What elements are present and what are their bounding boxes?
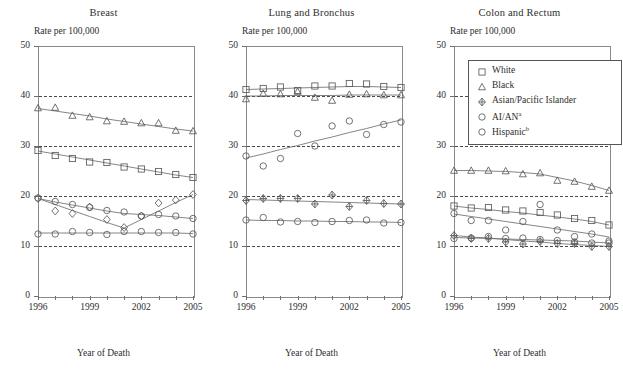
legend-item-label: Black [492, 80, 514, 90]
data-point-marker [398, 119, 404, 125]
data-point-marker [155, 119, 162, 125]
data-point-marker [260, 90, 267, 96]
data-point-marker [121, 164, 127, 170]
trend-line [38, 151, 193, 178]
data-point-marker [52, 207, 59, 215]
data-point-marker [312, 219, 318, 225]
data-point-marker [329, 97, 336, 103]
legend-item-hispanic[interactable]: Hispanicb [492, 125, 529, 137]
data-point-marker [52, 231, 58, 237]
series-layer [0, 0, 207, 373]
data-point-marker [329, 123, 335, 129]
data-point-marker [294, 130, 300, 136]
data-point-marker [190, 231, 196, 237]
data-point-marker [243, 153, 249, 159]
data-point-marker [69, 228, 75, 234]
data-point-marker [346, 217, 352, 223]
figure-root: BreastRate per 100,000010203040501996199… [0, 0, 623, 373]
data-point-marker [35, 231, 41, 237]
legend-item-black[interactable]: Black [492, 80, 514, 90]
data-point-marker [35, 104, 42, 110]
data-point-marker [363, 131, 369, 137]
data-point-marker [155, 211, 161, 217]
data-point-marker [138, 119, 145, 125]
trend-line [38, 195, 193, 229]
data-point-marker [86, 229, 92, 235]
data-point-marker [363, 90, 370, 96]
legend-item-asian-pacific-islander[interactable]: Asian/Pacific Islander [492, 95, 576, 105]
data-point-marker [173, 229, 179, 235]
data-point-marker [173, 213, 179, 219]
data-point-marker [277, 195, 284, 203]
data-point-marker [138, 213, 144, 219]
data-point-marker [346, 80, 352, 86]
legend-markers [416, 0, 623, 373]
trend-line [246, 87, 401, 90]
trend-line [38, 233, 193, 234]
legend-item-label: Hispanic [492, 127, 526, 137]
data-point-marker [52, 104, 59, 110]
series-layer [208, 0, 415, 373]
diamond-cross-marker [479, 98, 486, 106]
legend-item-label: AI/AN [492, 112, 518, 122]
data-point-marker [329, 83, 335, 89]
data-point-marker [243, 197, 250, 205]
data-point-marker [155, 199, 162, 207]
data-point-marker [260, 163, 266, 169]
triangle-marker [479, 83, 486, 89]
chart-panel-3: Colon and RectumRate per 100,00001020304… [416, 0, 623, 373]
data-point-marker [346, 203, 353, 211]
data-point-marker [172, 127, 179, 133]
data-point-marker [346, 118, 352, 124]
legend-item-label: Asian/Pacific Islander [492, 95, 576, 105]
data-point-marker [329, 191, 336, 199]
chart-panel-1: BreastRate per 100,000010203040501996199… [0, 0, 207, 373]
circle-marker [479, 129, 485, 135]
data-point-marker [312, 83, 318, 89]
data-point-marker [311, 94, 318, 100]
legend-footnote-marker: b [526, 125, 529, 132]
legend-item-label: White [492, 65, 515, 75]
data-point-marker [346, 91, 353, 97]
data-point-marker [35, 195, 41, 201]
trend-line [246, 120, 401, 158]
legend-footnote-marker: a [518, 110, 521, 117]
data-point-marker [104, 231, 110, 237]
legend-item-ai-an[interactable]: AI/ANa [492, 110, 521, 122]
data-point-marker [294, 218, 300, 224]
data-point-marker [277, 219, 283, 225]
data-point-marker [35, 147, 41, 153]
data-point-marker [260, 195, 267, 203]
data-point-marker [398, 200, 405, 208]
data-point-marker [277, 84, 283, 90]
data-point-marker [121, 209, 127, 215]
square-marker [479, 69, 485, 75]
data-point-marker [381, 220, 387, 226]
legend-item-white[interactable]: White [492, 65, 515, 75]
data-point-marker [277, 155, 283, 161]
data-point-marker [155, 229, 161, 235]
trend-line [246, 95, 401, 96]
data-point-marker [381, 83, 387, 89]
small-circle-marker [479, 114, 485, 120]
data-point-marker [312, 143, 318, 149]
trend-line [38, 199, 193, 219]
trend-line [246, 200, 401, 205]
chart-panel-2: Lung and BronchusRate per 100,0000102030… [208, 0, 415, 373]
data-point-marker [260, 214, 266, 220]
data-point-marker [138, 228, 144, 234]
data-point-marker [380, 200, 387, 208]
trend-line [38, 109, 193, 132]
trend-line [246, 220, 401, 223]
